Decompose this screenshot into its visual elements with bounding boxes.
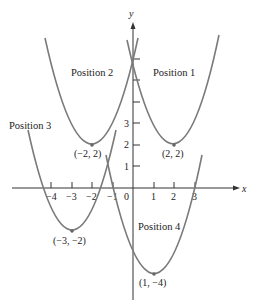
- vertex-position-2: [90, 143, 94, 147]
- y-axis-label: y: [128, 8, 134, 19]
- vertex-label-position-3: (−3, −2): [53, 235, 86, 247]
- parabola-position-4: [106, 155, 202, 274]
- parabola-position-1: [127, 35, 219, 144]
- x-axis-label: x: [241, 183, 247, 194]
- svg-text:−2: −2: [86, 191, 97, 202]
- svg-text:1: 1: [124, 161, 129, 172]
- parabola-position-3: [28, 130, 116, 230]
- vertex-label-position-2: (−2, 2): [74, 148, 101, 160]
- vertex-position-4: [152, 272, 156, 276]
- vertex-position-3: [70, 229, 74, 233]
- position-4-label: Position 4: [138, 221, 181, 232]
- x-ticks: [51, 182, 195, 188]
- position-1-label: Position 1: [153, 67, 195, 78]
- svg-text:1: 1: [151, 191, 156, 202]
- vertex-label-position-1: (2, 2): [162, 148, 184, 160]
- y-ticks: [133, 59, 140, 166]
- svg-text:−3: −3: [66, 191, 77, 202]
- position-2-label: Position 2: [71, 67, 113, 78]
- x-axis-arrow-icon: [233, 186, 240, 191]
- svg-text:3: 3: [124, 118, 129, 129]
- y-tick-labels: 1 2 3: [124, 118, 129, 172]
- svg-text:2: 2: [124, 139, 129, 150]
- vertex-position-1: [172, 143, 176, 147]
- parabola-diagram: x y −4 −3 −2 −1 0 1 2 3 1 2 3: [0, 0, 254, 307]
- vertex-label-position-4: (1, −4): [139, 277, 166, 289]
- position-3-label: Position 3: [9, 120, 51, 131]
- svg-text:0: 0: [124, 191, 129, 202]
- y-axis-arrow-icon: [131, 22, 136, 29]
- x-tick-labels: −4 −3 −2 −1 0 1 2 3: [46, 191, 197, 202]
- svg-text:2: 2: [171, 191, 176, 202]
